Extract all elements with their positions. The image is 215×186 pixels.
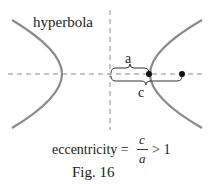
fraction-denominator: a <box>139 152 146 165</box>
brace-c <box>111 76 182 85</box>
fraction-bar <box>137 149 148 150</box>
figure-caption: Fig. 16 <box>72 165 115 180</box>
fraction-numerator: c <box>139 133 145 146</box>
hyperbola-label: hyperbola <box>33 15 93 30</box>
vertex-point <box>146 71 152 77</box>
greater-than-one: > 1 <box>152 143 170 157</box>
focus-point <box>179 71 185 77</box>
right-branch <box>150 20 202 128</box>
a-label: a <box>125 52 131 66</box>
c-label: c <box>138 86 144 100</box>
eccentricity-label: eccentricity = <box>52 143 129 157</box>
